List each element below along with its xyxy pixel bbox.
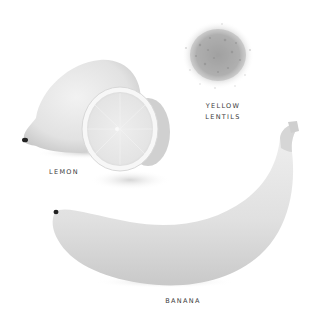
food-graphics [0,0,316,316]
lentils-label-line2: LENTILS [200,112,246,123]
lentils-label: YELLOW LENTILS [200,101,246,123]
lentils-pile [182,21,254,89]
lentils-label-line1: YELLOW [200,101,246,112]
lemon-label: LEMON [44,167,84,178]
lemon-half [82,87,170,190]
food-illustration: YELLOW LENTILS LEMON BANANA [0,0,316,316]
banana-label: BANANA [160,296,206,307]
